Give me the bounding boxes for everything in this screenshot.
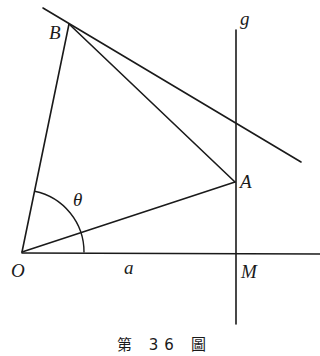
figure-caption: 第 36 圖 bbox=[117, 336, 212, 354]
label-a-length: a bbox=[124, 257, 134, 278]
label-m: M bbox=[240, 261, 258, 282]
segment-ob bbox=[22, 24, 69, 252]
segment-ba bbox=[69, 24, 235, 182]
geometry-figure: B g θ A O a M 第 36 圖 bbox=[0, 0, 320, 356]
segment-oa bbox=[22, 182, 235, 252]
axis-line-om bbox=[22, 253, 320, 254]
label-g: g bbox=[240, 8, 250, 29]
tangent-line-b bbox=[43, 8, 301, 162]
label-o: O bbox=[11, 260, 25, 281]
label-b: B bbox=[49, 22, 61, 43]
label-theta: θ bbox=[73, 189, 82, 210]
label-a-point: A bbox=[238, 171, 252, 192]
